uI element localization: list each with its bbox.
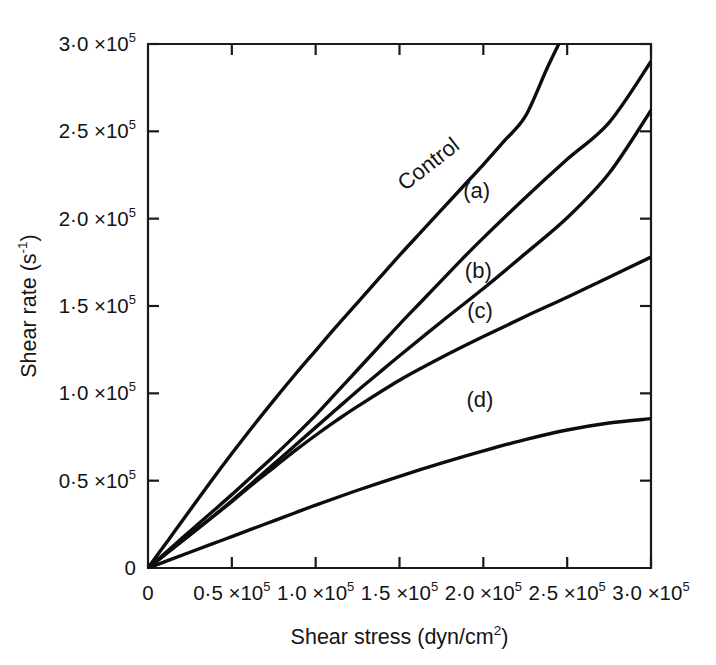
- y-tick-label: 1·5 ×105: [59, 292, 136, 317]
- x-tick-label: 1·5 ×105: [361, 579, 438, 604]
- x-tick-label: 0·5 ×105: [193, 579, 270, 604]
- x-tick-label: 2·0 ×105: [445, 579, 522, 604]
- y-tick-label: 1·0 ×105: [59, 379, 136, 404]
- curve-label-d: (d): [467, 387, 494, 412]
- y-tick-label: 0·5 ×105: [59, 467, 136, 492]
- y-axis-title: Shear rate (s-1): [15, 234, 41, 377]
- x-tick-label: 3·0 ×105: [612, 579, 689, 604]
- y-tick-label: 2·5 ×105: [59, 117, 136, 142]
- shear-rate-vs-shear-stress-chart: 00·5 ×1051·0 ×1051·5 ×1052·0 ×1052·5 ×10…: [0, 0, 716, 665]
- y-tick-label: 0: [125, 556, 136, 579]
- x-tick-label: 0: [142, 581, 153, 604]
- x-axis-title: Shear stress (dyn/cm2): [291, 623, 509, 649]
- curve-label-c: (c): [467, 298, 493, 323]
- chart-background: [0, 0, 716, 665]
- y-tick-label: 2·0 ×105: [59, 205, 136, 230]
- x-tick-label: 2·5 ×105: [528, 579, 605, 604]
- y-tick-label: 3·0 ×105: [59, 30, 136, 55]
- x-tick-label: 1·0 ×105: [277, 579, 354, 604]
- figure-container: 00·5 ×1051·0 ×1051·5 ×1052·0 ×1052·5 ×10…: [0, 0, 716, 665]
- curve-label-a: (a): [463, 178, 490, 203]
- curve-label-b: (b): [465, 258, 492, 283]
